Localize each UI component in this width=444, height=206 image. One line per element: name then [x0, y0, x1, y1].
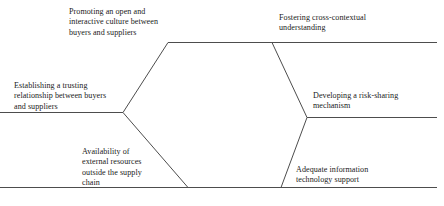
enabler-label-availability-external-resources: Availability of external resources outsi… [82, 147, 168, 189]
diagram-canvas: Promoting an open and interactive cultur… [0, 0, 444, 206]
enabler-label-fostering-cross-contextual-understanding: Fostering cross-contextual understanding [279, 13, 403, 34]
enabler-label-developing-risk-sharing-mechanism: Developing a risk-sharing mechanism [313, 91, 433, 112]
enabler-label-establishing-trusting-relationship: Establishing a trusting relationship bet… [14, 81, 118, 112]
enabler-label-promoting-open-culture: Promoting an open and interactive cultur… [69, 7, 181, 38]
hexagon-edge-upper-right [272, 43, 307, 118]
enabler-label-adequate-information-technology-support: Adequate information technology support [296, 165, 416, 186]
hexagon-edge-upper-left [123, 43, 168, 113]
